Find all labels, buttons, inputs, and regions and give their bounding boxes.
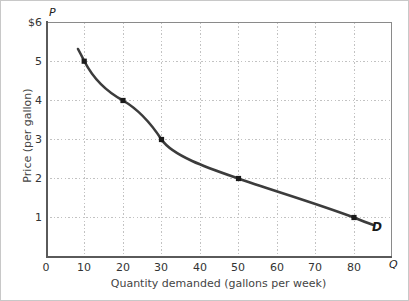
x-tick-label-20: 20 (109, 262, 137, 273)
demand-curve-label: D (372, 221, 382, 233)
x-tick-label-10: 10 (70, 262, 98, 273)
x-tick-label-50: 50 (224, 262, 252, 273)
y-axis-symbol: P (49, 7, 56, 18)
y-tick-label-1: 1 (9, 212, 42, 223)
data-point (120, 98, 125, 103)
data-point (236, 176, 241, 181)
x-axis-symbol: Q (389, 259, 398, 270)
x-tick-label-70: 70 (301, 262, 329, 273)
x-tick-label-40: 40 (186, 262, 214, 273)
x-axis-title: Quantity demanded (gallons per week) (46, 278, 391, 289)
y-axis-title: Price (per gallon) (22, 61, 33, 211)
x-tick-label-0: 0 (32, 262, 60, 273)
x-tick-label-30: 30 (147, 262, 175, 273)
data-point (351, 215, 356, 220)
demand-curve-figure: P Q $6 5 4 3 2 1 0 10 20 30 40 50 60 70 … (0, 0, 409, 301)
x-tick-label-60: 60 (263, 262, 291, 273)
y-tick-label-6: $6 (9, 17, 42, 28)
x-tick-label-80: 80 (340, 262, 368, 273)
data-point (159, 137, 164, 142)
chart-canvas (1, 1, 409, 301)
horizontal-gridlines (47, 62, 392, 218)
demand-curve (78, 49, 374, 225)
data-point (82, 59, 87, 64)
